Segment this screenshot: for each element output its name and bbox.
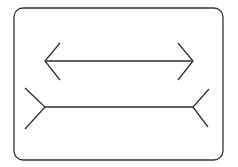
muller-lyer-diagram bbox=[0, 0, 238, 167]
frame-border bbox=[14, 8, 223, 160]
bottom-left-fins bbox=[25, 88, 45, 129]
bottom-right-fins bbox=[193, 89, 209, 127]
top-line-group bbox=[45, 43, 193, 80]
bottom-line-group bbox=[25, 88, 209, 129]
